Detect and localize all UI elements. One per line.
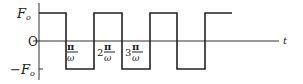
svg-text:2: 2 <box>97 47 103 58</box>
square-wave-diagram: Fo O −Fo t π ω 2 π ω 3 π ω <box>0 0 303 84</box>
x-tick-label-3pi-over-omega: 3 π ω <box>125 41 143 63</box>
svg-text:3: 3 <box>125 47 131 58</box>
svg-text:π: π <box>67 41 74 52</box>
svg-text:ω: ω <box>132 53 140 63</box>
svg-text:ω: ω <box>67 53 75 63</box>
svg-text:π: π <box>132 41 139 52</box>
y-label-neg-f0: −Fo <box>10 62 35 78</box>
y-label-f0: Fo <box>16 6 31 22</box>
y-label-zero: O <box>28 35 38 49</box>
x-tick-label-pi-over-omega: π ω <box>67 41 78 63</box>
t-axis-label: t <box>283 35 288 46</box>
svg-text:ω: ω <box>104 53 112 63</box>
svg-text:π: π <box>104 41 111 52</box>
x-tick-label-2pi-over-omega: 2 π ω <box>97 41 115 63</box>
